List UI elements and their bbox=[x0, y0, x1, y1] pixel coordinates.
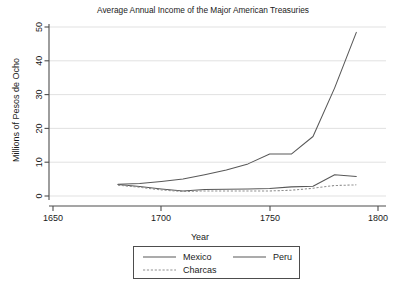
chart-screenshot: Average Annual Income of the Major Ameri… bbox=[0, 0, 406, 287]
y-tick-label-10: 10 bbox=[34, 157, 44, 167]
chart-title: Average Annual Income of the Major Ameri… bbox=[97, 5, 309, 15]
x-axis: 1650 1700 1750 1800 Year bbox=[43, 206, 388, 242]
y-axis-title: Millions of Pesos de Ocho bbox=[11, 58, 21, 162]
x-axis-title: Year bbox=[191, 232, 209, 242]
y-tick-label-50: 50 bbox=[34, 22, 44, 32]
legend-label-mexico[interactable]: Mexico bbox=[183, 252, 212, 262]
y-tick-label-30: 30 bbox=[34, 90, 44, 100]
y-tick-label-20: 20 bbox=[34, 123, 44, 133]
x-tick-label-1750: 1750 bbox=[260, 213, 280, 223]
series-group bbox=[118, 32, 356, 191]
y-tick-label-0: 0 bbox=[34, 193, 44, 198]
gridlines bbox=[49, 27, 386, 196]
line-chart: Average Annual Income of the Major Ameri… bbox=[0, 0, 406, 287]
legend-label-charcas[interactable]: Charcas bbox=[183, 265, 217, 275]
x-tick-label-1800: 1800 bbox=[368, 213, 388, 223]
legend: Mexico Peru Charcas bbox=[134, 247, 300, 279]
x-tick-label-1650: 1650 bbox=[43, 213, 63, 223]
series-line-mexico bbox=[118, 32, 356, 184]
legend-label-peru[interactable]: Peru bbox=[273, 252, 292, 262]
y-axis: 50 40 30 20 10 0 Millions of Pesos de Oc… bbox=[11, 22, 49, 200]
x-tick-label-1700: 1700 bbox=[151, 213, 171, 223]
y-tick-label-40: 40 bbox=[34, 56, 44, 66]
